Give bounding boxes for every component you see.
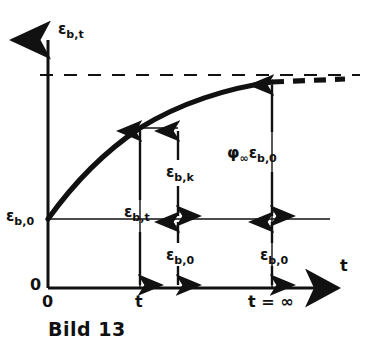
x-axis-label: t bbox=[340, 258, 348, 274]
figure-bild-13: εb,t t εb,0 0 0 t t = ∞ εb,t εb,k εb,0 φ… bbox=[0, 0, 382, 357]
annotation-eps-b-t-subscript: b,t bbox=[132, 211, 149, 224]
y-axis-label: εb,t bbox=[58, 22, 84, 40]
origin-label-x: 0 bbox=[42, 294, 53, 310]
origin-label-x-text: 0 bbox=[42, 292, 53, 311]
annotation-phi-subscript: ∞ bbox=[240, 152, 249, 165]
y-axis-eps-b0-label: εb,0 bbox=[6, 209, 34, 227]
figure-caption: Bild 13 bbox=[48, 318, 126, 340]
annotation-eps-b-0-mid-subscript: b,0 bbox=[174, 254, 194, 267]
x-tick-label-t: t bbox=[135, 294, 143, 310]
annotation-eps-b-k: εb,k bbox=[166, 165, 194, 183]
origin-label-y: 0 bbox=[30, 277, 41, 293]
annotation-phi-symbol: φ bbox=[227, 143, 240, 162]
x-tick-label-t-infinity: t = ∞ bbox=[248, 294, 294, 310]
annotation-eps-b-t: εb,t bbox=[124, 205, 150, 223]
x-tick-label-t-infinity-text: t = ∞ bbox=[248, 292, 294, 311]
annotation-eps-b-0-mid: εb,0 bbox=[166, 248, 194, 266]
x-tick-label-t-text: t bbox=[135, 292, 143, 311]
y-axis-eps-b0-subscript: b,0 bbox=[14, 215, 34, 228]
annotation-eps-b-0-right: εb,0 bbox=[260, 248, 288, 266]
x-axis-symbol: t bbox=[340, 256, 348, 275]
origin-label-y-text: 0 bbox=[30, 275, 41, 294]
annotation-eps-b-0-right-subscript: b,0 bbox=[268, 254, 288, 267]
y-axis-subscript: b,t bbox=[66, 28, 83, 41]
creep-curve-extrapolation bbox=[272, 79, 345, 82]
annotation-phi-eps-subscript: b,0 bbox=[257, 152, 277, 165]
annotation-eps-b-k-subscript: b,k bbox=[174, 171, 193, 184]
annotation-phi-inf-eps-b-0: φ∞εb,0 bbox=[227, 145, 277, 164]
annotation-phi-eps-symbol: ε bbox=[249, 144, 257, 162]
